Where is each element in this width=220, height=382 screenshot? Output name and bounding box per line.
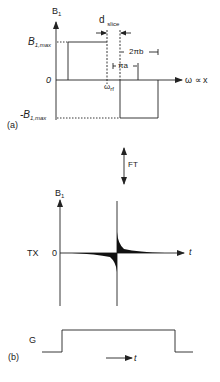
d-slice-label: d slice bbox=[99, 15, 119, 27]
tx-row-label: TX bbox=[27, 249, 39, 258]
gradient-waveform bbox=[42, 330, 193, 352]
sinc-lobes bbox=[72, 232, 165, 272]
diagram-canvas bbox=[0, 0, 220, 382]
a-zero-label: 0 bbox=[46, 76, 51, 85]
tx-b1-axis-label: B1 bbox=[55, 189, 64, 199]
negative-rect-pulse bbox=[120, 80, 158, 118]
gradient-plot bbox=[42, 330, 193, 358]
a-b1max-label: B1,max bbox=[28, 37, 51, 48]
positive-rect-pulse bbox=[68, 42, 107, 80]
omega-rf-label: ωrf bbox=[104, 83, 114, 92]
g-row-label: G bbox=[29, 336, 36, 345]
pi-a-label: πa bbox=[118, 62, 128, 70]
g-time-label: t bbox=[134, 354, 137, 363]
panel-b-label: (b) bbox=[8, 353, 19, 362]
tx-zero-label: 0 bbox=[52, 249, 57, 258]
panel-a-label: (a) bbox=[7, 121, 18, 130]
ft-label: FT bbox=[128, 161, 138, 169]
a-neg-b1max-label: -B1,max bbox=[20, 110, 46, 121]
a-b1-axis-label: B1 bbox=[52, 7, 61, 17]
panel-a-plot bbox=[56, 22, 182, 120]
two-pi-b-label: 2πb bbox=[129, 48, 143, 56]
tx-time-label: t bbox=[189, 248, 192, 257]
omega-axis-label: ω ∝ x bbox=[185, 76, 208, 85]
